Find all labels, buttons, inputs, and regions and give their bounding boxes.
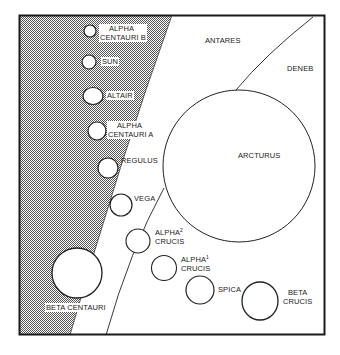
deneb-label: DENEB (287, 64, 313, 73)
beta-centauri-circle (52, 248, 102, 298)
alpha2-crucis-circle (126, 229, 150, 253)
alpha-centauri-b-label: ALPHA CENTAURI B (99, 24, 147, 42)
alpha-centauri-a-label: ALPHA CENTAURI A (107, 121, 154, 139)
sun-circle (82, 55, 96, 69)
sun-label: SUN (101, 57, 119, 66)
alpha-centauri-b-circle (84, 25, 96, 37)
regulus-circle (98, 158, 118, 178)
beta-centauri-label: BETA CENTAURI (45, 303, 107, 312)
arcturus-label: ARCTURUS (238, 151, 280, 160)
antares-deneb-boundary (236, 17, 313, 90)
altair-label: ALTAIR (106, 91, 134, 100)
antares-label: ANTARES (205, 36, 241, 45)
beta-crucis-circle (242, 282, 278, 320)
alpha2-crucis-label: ALPHA2 CRUCIS (155, 228, 184, 246)
alpha1-crucis-label: ALPHA1 CRUCIS (181, 255, 210, 273)
alpha-centauri-a-circle (88, 122, 106, 140)
beta-crucis-label: BETA CRUCIS (283, 288, 312, 306)
spica-label: SPICA (218, 285, 241, 294)
vega-label: VEGA (134, 194, 155, 203)
regulus-label: REGULUS (121, 156, 158, 165)
arcturus-circle (163, 90, 315, 242)
alpha1-crucis-circle (152, 256, 177, 281)
altair-circle (83, 88, 103, 105)
vega-circle (110, 194, 132, 216)
spica-circle (186, 276, 214, 304)
